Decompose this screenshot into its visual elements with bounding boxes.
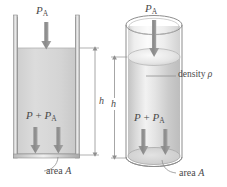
left-area-symbol: A (65, 165, 71, 176)
cylinder-bottom-inner-ellipse (128, 148, 180, 165)
right-bottom-pressure-label: P + PA (134, 112, 165, 123)
right-area-prefix: area (179, 167, 198, 178)
right-ppa-symbol1: P (134, 111, 141, 123)
right-top-pressure-label: PA (145, 3, 157, 14)
density-prefix: density (178, 69, 208, 79)
pressure-diagram-figure: PA P + PA h area A PA P + PA h density ρ… (0, 0, 227, 187)
left-top-pressure-label: PA (36, 5, 48, 16)
left-pa-subscript: A (43, 9, 48, 18)
left-area-label: area A (46, 166, 71, 176)
right-ppa-operator: + (141, 111, 153, 123)
left-height-label: h (98, 95, 105, 107)
left-ppa-subscript: A (51, 114, 56, 123)
right-height-label: h (110, 98, 117, 110)
density-label: density ρ (178, 70, 212, 80)
left-bottom-pressure-label: P + PA (26, 110, 57, 121)
left-top-pressure-arrow (41, 22, 51, 50)
right-area-symbol: A (198, 167, 204, 178)
left-area-prefix: area (46, 165, 65, 176)
right-pa-subscript: A (152, 7, 157, 16)
left-ppa-symbol1: P (26, 109, 33, 121)
density-symbol: ρ (208, 69, 213, 79)
right-area-label: area A (179, 168, 204, 178)
right-pa-symbol: P (145, 2, 152, 14)
left-height-dimension (80, 46, 100, 157)
right-ppa-subscript: A (159, 116, 164, 125)
diagram-canvas (0, 0, 227, 187)
left-fluid-body (18, 48, 76, 154)
left-vessel-wall-left (14, 15, 18, 158)
left-ppa-operator: + (33, 109, 45, 121)
left-vessel-wall-bottom (14, 154, 80, 158)
left-pa-symbol: P (36, 4, 43, 16)
left-vessel-wall-right (76, 15, 80, 158)
